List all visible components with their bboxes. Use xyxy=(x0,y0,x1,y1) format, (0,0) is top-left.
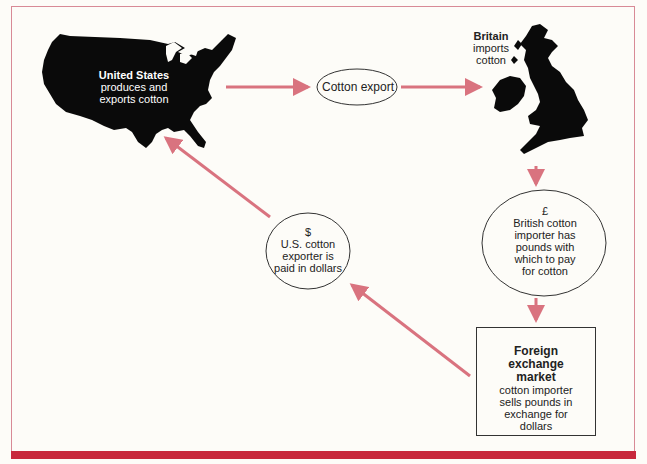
pound-line1: British cotton xyxy=(485,217,605,229)
us-title: United States xyxy=(84,69,184,81)
cotton-trade-diagram: United States produces and exports cotto… xyxy=(0,0,647,464)
britain-label: Britain imports cotton xyxy=(466,30,516,66)
britain-line2: cotton xyxy=(466,54,516,66)
us-line1: produces and xyxy=(84,81,184,93)
pound-line5: for cotton xyxy=(485,265,605,277)
pound-line4: which to pay xyxy=(485,253,605,265)
pound-label: £ British cotton importer has pounds wit… xyxy=(485,205,605,277)
fx-line1: cotton importer xyxy=(476,384,596,396)
cotton-export-label: Cotton export xyxy=(317,81,399,93)
dollar-label: $ U.S. cotton exporter is paid in dollar… xyxy=(262,226,354,274)
arrow-dollar-to-us xyxy=(166,138,270,217)
fx-line4: dollars xyxy=(476,420,596,432)
britain-title: Britain xyxy=(466,30,516,42)
fx-title3: market xyxy=(476,371,596,384)
us-label: United States produces and exports cotto… xyxy=(84,69,184,105)
fx-line2: sells pounds in xyxy=(476,396,596,408)
us-line2: exports cotton xyxy=(84,93,184,105)
fx-market-label: Foreign exchange market cotton importer … xyxy=(476,345,596,432)
pound-line2: importer has xyxy=(485,229,605,241)
arrow-fx-to-dollar xyxy=(352,285,470,376)
dollar-symbol: $ xyxy=(262,226,354,238)
britain-line1: imports xyxy=(466,42,516,54)
dollar-line1: U.S. cotton xyxy=(262,238,354,250)
pound-line3: pounds with xyxy=(485,241,605,253)
dollar-line3: paid in dollars xyxy=(262,262,354,274)
fx-line3: exchange for xyxy=(476,408,596,420)
dollar-line2: exporter is xyxy=(262,250,354,262)
pound-symbol: £ xyxy=(485,205,605,217)
